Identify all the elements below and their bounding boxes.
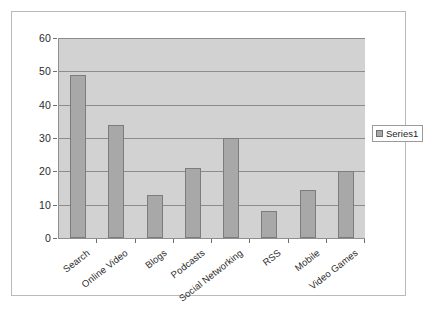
x-tick-mark xyxy=(135,239,136,243)
bar[interactable] xyxy=(300,190,316,238)
x-tick-label: RSS xyxy=(261,247,283,268)
y-tick-label: 20 xyxy=(39,165,51,177)
chart-legend[interactable]: Series1 xyxy=(372,125,423,142)
x-tick-mark xyxy=(173,239,174,243)
x-tick-mark xyxy=(249,239,250,243)
y-tick-mark xyxy=(53,205,57,206)
plot-area xyxy=(58,38,365,239)
y-tick-mark xyxy=(53,71,57,72)
x-tick-label: Blogs xyxy=(143,247,169,271)
y-tick-label: 10 xyxy=(39,199,51,211)
x-tick-label: Mobile xyxy=(292,247,321,273)
x-tick-mark xyxy=(288,239,289,243)
y-tick-mark xyxy=(53,238,57,239)
bar-chart: 0102030405060 SearchOnline VideoBlogsPod… xyxy=(0,0,424,325)
gridline xyxy=(59,105,365,106)
gridline xyxy=(59,171,365,172)
bar[interactable] xyxy=(261,211,277,238)
x-tick-mark xyxy=(211,239,212,243)
x-tick-mark xyxy=(364,239,365,243)
gridline xyxy=(59,71,365,72)
legend-label-series1: Series1 xyxy=(386,128,418,139)
gridline xyxy=(59,205,365,206)
y-tick-label: 40 xyxy=(39,99,51,111)
x-tick-label: Search xyxy=(61,247,92,275)
bar[interactable] xyxy=(185,168,201,238)
y-tick-label: 60 xyxy=(39,32,51,44)
y-axis: 0102030405060 xyxy=(23,38,57,239)
bar[interactable] xyxy=(147,195,163,238)
y-tick-mark xyxy=(53,105,57,106)
y-tick-mark xyxy=(53,171,57,172)
y-tick-mark xyxy=(53,138,57,139)
legend-swatch-series1 xyxy=(376,130,383,137)
bar[interactable] xyxy=(223,138,239,238)
chart-frame: 0102030405060 SearchOnline VideoBlogsPod… xyxy=(11,11,406,296)
y-tick-label: 30 xyxy=(39,132,51,144)
gridline xyxy=(59,138,365,139)
bar[interactable] xyxy=(108,125,124,238)
y-tick-label: 0 xyxy=(45,232,51,244)
y-tick-mark xyxy=(53,38,57,39)
x-tick-mark xyxy=(326,239,327,243)
x-tick-mark xyxy=(96,239,97,243)
x-axis: SearchOnline VideoBlogsPodcastsSocial Ne… xyxy=(58,239,365,309)
bar[interactable] xyxy=(70,75,86,238)
y-tick-label: 50 xyxy=(39,65,51,77)
gridline xyxy=(59,38,365,39)
bar[interactable] xyxy=(338,171,354,238)
